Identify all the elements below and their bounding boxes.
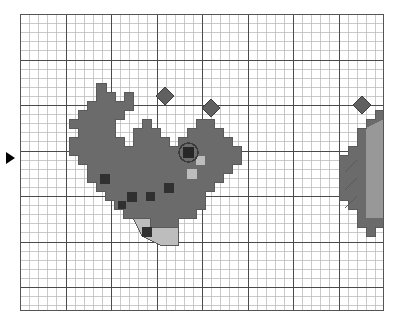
sprite-eye-pupil xyxy=(183,147,194,158)
sprite-spot xyxy=(118,201,126,209)
scene-svg xyxy=(20,14,384,311)
pixel-grid-canvas[interactable] xyxy=(20,14,384,311)
sprite-spot xyxy=(164,183,174,193)
sprite-editor-canvas-view xyxy=(0,0,397,325)
row-marker-triangle-icon[interactable] xyxy=(6,152,15,164)
sprite-belly-fin-spot xyxy=(142,227,152,237)
sprite-highlight xyxy=(187,169,197,179)
sprite-spot xyxy=(146,192,155,201)
sprite-spot xyxy=(127,192,137,202)
sprite-shading-overlay xyxy=(366,119,384,218)
sprite-spot xyxy=(100,174,110,184)
